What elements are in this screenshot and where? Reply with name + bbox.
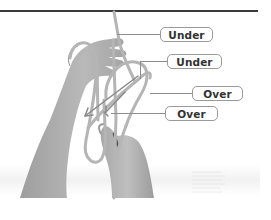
knot-illustration [0, 0, 271, 220]
leader-line-4 [111, 113, 165, 114]
leader-line-2 [140, 61, 167, 62]
callout-over-1: Over [192, 86, 243, 101]
leader-line-3 [150, 93, 192, 94]
callout-under-2: Under [167, 54, 222, 69]
leader-line-2-drop [140, 61, 141, 79]
callout-over-2: Over [165, 106, 218, 121]
leader-line-1 [117, 34, 160, 35]
callout-under-1: Under [160, 27, 213, 42]
